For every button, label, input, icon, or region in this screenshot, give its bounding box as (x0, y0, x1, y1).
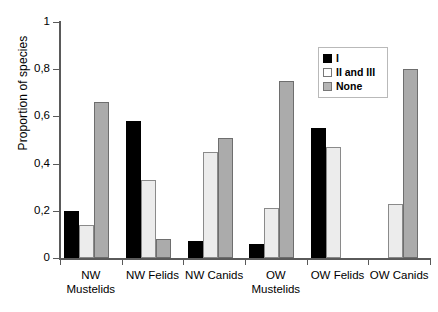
y-tick-5 (53, 22, 60, 23)
bar-ow-felids-ii-and-iii (326, 147, 341, 258)
legend-swatch-i (323, 54, 332, 63)
y-axis-title: Proportion of species (16, 18, 30, 168)
x-tick-2 (245, 258, 246, 265)
legend-item-0: I (323, 51, 383, 65)
bar-nw-mustelids-none (94, 102, 109, 258)
y-tick-label-2: 0,4 (4, 158, 50, 170)
y-tick-4 (53, 69, 60, 70)
y-tick-0 (53, 258, 60, 259)
bar-ow-mustelids-none (279, 81, 294, 258)
bar-nw-canids-ii-and-iii (203, 152, 218, 258)
legend-label-ii-and-iii: II and III (336, 67, 375, 78)
legend-label-i: I (336, 53, 339, 64)
bar-ow-canids-none (403, 69, 418, 258)
legend-swatch-ii-and-iii (323, 68, 332, 77)
y-tick-3 (53, 116, 60, 117)
legend-item-2: None (323, 79, 383, 93)
bar-ow-mustelids-i (249, 244, 264, 258)
bar-ow-canids-ii-and-iii (388, 204, 403, 258)
y-tick-label-3: 0,6 (4, 110, 50, 122)
x-tick-5 (430, 258, 431, 265)
bar-nw-canids-none (218, 138, 233, 258)
x-tick-origin (60, 258, 61, 265)
bar-ow-felids-i (311, 128, 326, 258)
bar-nw-felids-none (156, 239, 171, 258)
y-tick-label-0: 0 (4, 252, 50, 264)
bar-ow-mustelids-ii-and-iii (264, 208, 279, 258)
x-label-ow-canids: OW Canids (354, 268, 438, 282)
bar-chart: Proportion of species 00,20,40,60,81 NWM… (0, 0, 438, 312)
y-tick-2 (53, 164, 60, 165)
y-tick-label-1: 0,2 (4, 205, 50, 217)
bar-nw-felids-i (126, 121, 141, 258)
chart-legend: I II and III None (318, 47, 388, 98)
y-tick-label-5: 1 (4, 16, 50, 28)
x-tick-1 (183, 258, 184, 265)
legend-item-1: II and III (323, 65, 383, 79)
y-tick-1 (53, 211, 60, 212)
bar-nw-mustelids-i (64, 211, 79, 258)
x-tick-4 (368, 258, 369, 265)
x-tick-3 (307, 258, 308, 265)
bar-nw-canids-i (188, 241, 203, 258)
bar-nw-mustelids-ii-and-iii (79, 225, 94, 258)
legend-swatch-none (323, 82, 332, 91)
bar-nw-felids-ii-and-iii (141, 180, 156, 258)
legend-label-none: None (336, 81, 362, 92)
y-tick-label-4: 0,8 (4, 63, 50, 75)
x-tick-0 (122, 258, 123, 265)
